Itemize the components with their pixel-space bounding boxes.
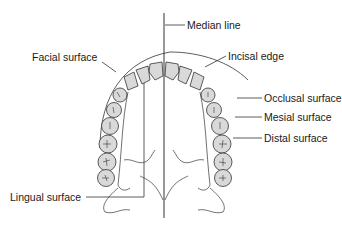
label-mesial-surface: Mesial surface xyxy=(264,111,332,123)
label-facial-surface: Facial surface xyxy=(32,51,97,63)
label-occlusal-surface: Occlusal surface xyxy=(264,92,342,104)
label-incisal-edge: Incisal edge xyxy=(228,50,284,62)
label-median-line: Median line xyxy=(187,19,241,31)
label-distal-surface: Distal surface xyxy=(264,132,328,144)
label-lingual-surface: Lingual surface xyxy=(10,191,81,203)
